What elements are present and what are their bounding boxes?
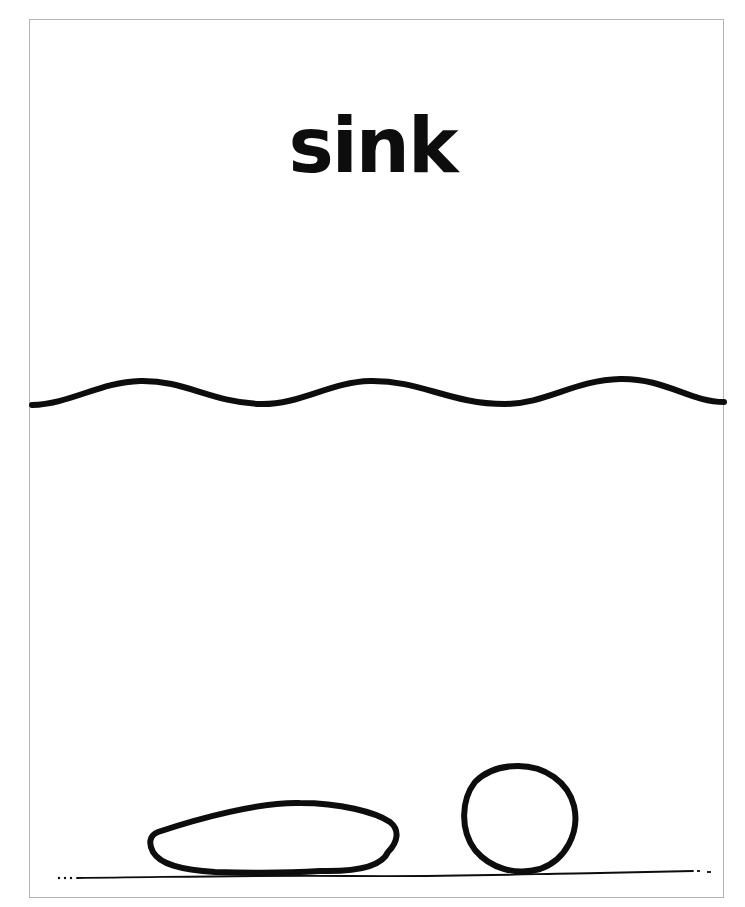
ground-line-dots-left bbox=[58, 877, 72, 879]
ground-line-dots-right bbox=[697, 871, 711, 872]
stone-shape bbox=[150, 803, 396, 873]
ball-shape bbox=[464, 766, 575, 872]
ground-line bbox=[77, 871, 693, 878]
illustration bbox=[0, 0, 745, 907]
water-wave-line bbox=[32, 379, 724, 405]
